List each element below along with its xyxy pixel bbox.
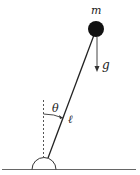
- gravity-label: g: [102, 58, 110, 72]
- angle-label: θ: [52, 102, 59, 115]
- mass-label: m: [91, 4, 101, 17]
- length-label: ℓ: [68, 113, 73, 126]
- pivot-joint: [32, 158, 56, 170]
- pendulum-rod: [48, 35, 94, 158]
- gravity-arrowhead: [95, 66, 100, 72]
- mass-bob: [88, 21, 104, 37]
- pendulum-diagram: m g θ ℓ: [0, 0, 140, 175]
